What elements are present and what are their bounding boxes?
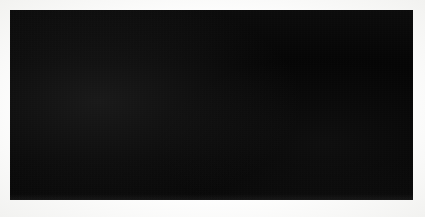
photographic-dark-field: [10, 10, 413, 200]
trace-drawing-surface: [10, 10, 413, 200]
oscillograph-plate: [0, 0, 425, 217]
